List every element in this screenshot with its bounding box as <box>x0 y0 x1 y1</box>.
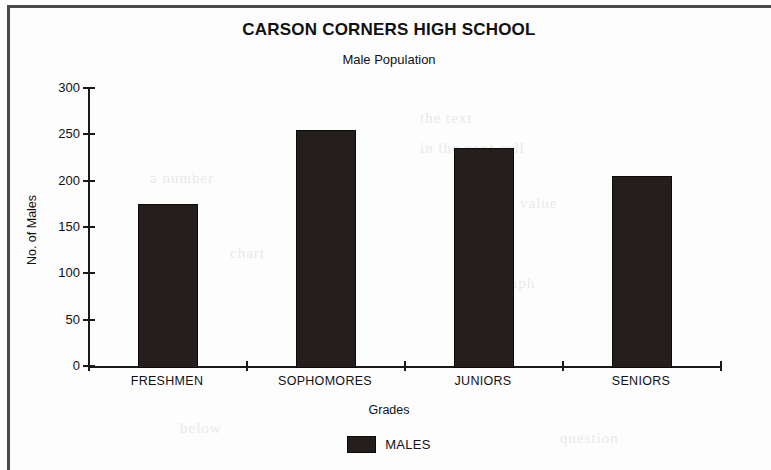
y-tick-label-250: 250 <box>32 127 80 140</box>
bar-freshmen <box>138 204 198 368</box>
bar-juniors <box>454 148 514 368</box>
y-tick-label-0: 0 <box>32 359 80 372</box>
category-label-juniors: JUNIORS <box>404 374 562 388</box>
bar-sophomores <box>296 130 356 368</box>
plot-area: 050100150200250300 FRESHMENSOPHOMORESJUN… <box>10 8 768 408</box>
y-tick-200 <box>83 180 95 182</box>
category-label-sophomores: SOPHOMORES <box>246 374 404 388</box>
y-tick-label-50: 50 <box>32 313 80 326</box>
y-tick-250 <box>83 133 95 135</box>
y-axis-line <box>88 88 90 368</box>
y-tick-300 <box>83 87 95 89</box>
y-tick-100 <box>83 272 95 274</box>
bar-seniors <box>612 176 672 368</box>
scanned-page: the textin the next cella numbervaluecha… <box>0 0 771 470</box>
x-tick-2 <box>404 361 406 371</box>
y-tick-label-300: 300 <box>32 81 80 94</box>
x-tick-0 <box>88 361 90 371</box>
x-tick-4 <box>720 361 722 371</box>
x-tick-3 <box>562 361 564 371</box>
x-axis-title: Grades <box>10 403 768 417</box>
bar-chart: CARSON CORNERS HIGH SCHOOL Male Populati… <box>10 8 768 466</box>
y-tick-label-150: 150 <box>32 220 80 233</box>
y-tick-50 <box>83 319 95 321</box>
y-tick-150 <box>83 226 95 228</box>
y-tick-label-200: 200 <box>32 174 80 187</box>
chart-legend: MALES <box>10 436 768 453</box>
legend-swatch-males <box>347 436 376 453</box>
x-tick-1 <box>246 361 248 371</box>
category-label-seniors: SENIORS <box>562 374 720 388</box>
y-tick-label-100: 100 <box>32 266 80 279</box>
y-axis-title: No. of Males <box>25 150 39 310</box>
category-label-freshmen: FRESHMEN <box>88 374 246 388</box>
legend-label-males: MALES <box>385 437 431 452</box>
